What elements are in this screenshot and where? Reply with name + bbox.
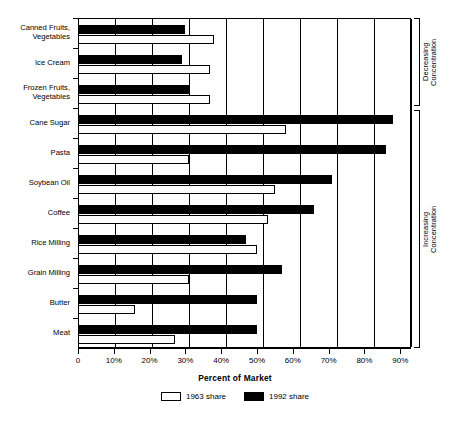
legend-label-1992: 1992 share xyxy=(269,392,309,401)
x-tick-mark xyxy=(293,349,294,354)
bar-1992 xyxy=(78,25,185,34)
y-axis-tick xyxy=(73,108,78,109)
y-axis-tick xyxy=(73,18,78,19)
x-tick-label: 90% xyxy=(380,356,420,365)
bar-1963 xyxy=(78,65,210,74)
bar-1963 xyxy=(78,215,268,224)
bar-1992 xyxy=(78,175,332,184)
bracket-label-decreasing: Decreasing Concentration xyxy=(422,18,440,106)
bar-1992 xyxy=(78,115,393,124)
bar-1992 xyxy=(78,55,182,64)
bar-1992 xyxy=(78,205,314,214)
bar-row xyxy=(78,78,411,108)
bar-1992 xyxy=(78,295,257,304)
y-axis-tick xyxy=(73,288,78,289)
category-label: Frozen Fruits, Vegetables xyxy=(0,84,70,101)
bar-row xyxy=(78,258,411,288)
legend-swatch-1992-icon xyxy=(244,392,264,401)
bar-1963 xyxy=(78,155,189,164)
bar-1963 xyxy=(78,305,135,314)
x-tick-mark xyxy=(150,349,151,354)
x-tick-label: 10% xyxy=(94,356,134,365)
bracket-increasing-icon xyxy=(414,110,420,348)
x-tick-mark xyxy=(364,349,365,354)
category-label: Rice Milling xyxy=(0,239,70,248)
x-axis xyxy=(78,348,411,349)
bracket-decreasing-icon xyxy=(414,18,420,106)
bar-1963 xyxy=(78,95,210,104)
bar-1963 xyxy=(78,35,214,44)
bar-1963 xyxy=(78,335,175,344)
bar-1992 xyxy=(78,85,189,94)
bar-row xyxy=(78,288,411,318)
legend: 1963 share 1992 share xyxy=(0,392,470,401)
y-axis-tick xyxy=(73,78,78,79)
category-label: Ice Cream xyxy=(0,59,70,68)
x-tick-label: 30% xyxy=(165,356,205,365)
bar-1963 xyxy=(78,125,286,134)
bar-row xyxy=(78,198,411,228)
y-axis-tick xyxy=(73,48,78,49)
bar-row xyxy=(78,228,411,258)
x-axis-title: Percent of Market xyxy=(0,373,470,383)
x-tick-mark xyxy=(78,349,79,354)
bar-1992 xyxy=(78,325,257,334)
category-label: Meat xyxy=(0,329,70,338)
category-label: Butter xyxy=(0,299,70,308)
bar-1992 xyxy=(78,235,246,244)
x-tick-label: 50% xyxy=(237,356,277,365)
y-axis-tick xyxy=(73,198,78,199)
bar-1963 xyxy=(78,185,275,194)
category-label: Cane Sugar xyxy=(0,119,70,128)
bracket-label-increasing: Increasing Concentration xyxy=(422,110,440,348)
legend-item-1963: 1963 share xyxy=(161,392,226,401)
bar-row xyxy=(78,138,411,168)
x-tick-label: 0 xyxy=(58,356,98,365)
y-axis-tick xyxy=(73,258,78,259)
x-tick-label: 20% xyxy=(130,356,170,365)
bar-chart: Canned Fruits, VegetablesIce CreamFrozen… xyxy=(0,0,470,424)
legend-label-1963: 1963 share xyxy=(186,392,226,401)
bar-row xyxy=(78,108,411,138)
y-axis-tick xyxy=(73,228,78,229)
x-tick-label: 60% xyxy=(273,356,313,365)
bar-1992 xyxy=(78,265,282,274)
bar-row xyxy=(78,18,411,48)
y-axis-tick xyxy=(73,168,78,169)
x-tick-mark xyxy=(329,349,330,354)
x-tick-mark xyxy=(221,349,222,354)
x-tick-label: 80% xyxy=(344,356,384,365)
y-axis-tick xyxy=(73,318,78,319)
bar-row xyxy=(78,318,411,348)
category-label: Coffee xyxy=(0,209,70,218)
x-tick-mark xyxy=(114,349,115,354)
legend-item-1992: 1992 share xyxy=(244,392,309,401)
x-tick-mark xyxy=(257,349,258,354)
legend-swatch-1963-icon xyxy=(161,392,181,401)
bar-row xyxy=(78,168,411,198)
x-tick-label: 40% xyxy=(201,356,241,365)
category-label: Soybean Oil xyxy=(0,179,70,188)
gridline xyxy=(411,19,412,347)
bar-1963 xyxy=(78,275,189,284)
x-tick-mark xyxy=(400,349,401,354)
bar-1963 xyxy=(78,245,257,254)
x-tick-mark xyxy=(185,349,186,354)
x-tick-label: 70% xyxy=(309,356,349,365)
category-label: Pasta xyxy=(0,149,70,158)
category-label: Grain Milling xyxy=(0,269,70,278)
bar-row xyxy=(78,48,411,78)
category-label: Canned Fruits, Vegetables xyxy=(0,24,70,41)
bar-rows xyxy=(78,18,411,348)
y-axis-tick xyxy=(73,138,78,139)
bar-1992 xyxy=(78,145,386,154)
